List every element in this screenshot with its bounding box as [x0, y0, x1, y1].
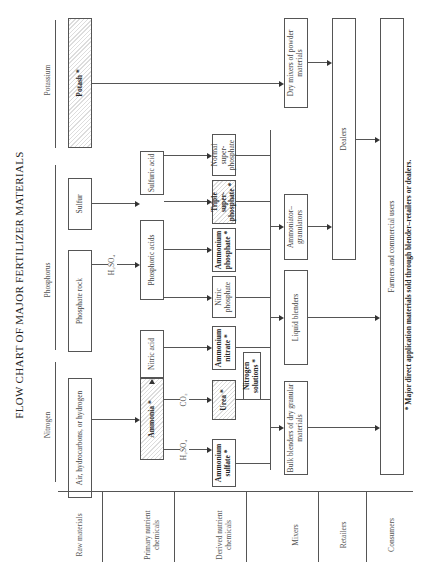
node-ammoniator-granulators: Ammoniator–granulators — [284, 194, 308, 260]
phosphorus-rule — [55, 165, 56, 350]
nitrogen-rule — [55, 362, 56, 482]
node-ammonium-nitrate: Ammonium nitrate * — [212, 326, 236, 370]
reagent-h2so4-phosphate: H₂SO₄ — [108, 245, 117, 285]
stage-divider — [58, 491, 413, 492]
node-liquid-blenders: Liquid blenders — [284, 270, 308, 365]
stage-primary: Primary nutrient chemicals — [144, 502, 161, 568]
stage-mixers: Mixers — [292, 502, 301, 568]
node-triple-superphosphate: Triple super-phosphate * — [212, 180, 236, 224]
chart-title: FLOW CHART OF MAJOR FERTILIZER MATERIALS — [13, 0, 25, 570]
stage-raw-materials: Raw materials — [76, 502, 85, 568]
potassium-rule — [55, 20, 56, 148]
node-nitric-acid: Nitric acid — [140, 330, 164, 378]
node-air-hydrocarbons: Air, hydrocarbons, or hydrogen — [68, 378, 92, 498]
node-ammonia: Ammonia * — [140, 378, 164, 460]
reagent-co2-urea: CO₂ — [180, 380, 189, 420]
node-sulfuric-acid: Sulfuric acid — [140, 151, 164, 195]
node-potash: Potash * — [68, 18, 92, 148]
node-nitric-phosphate: Nitric phosphate — [212, 276, 236, 318]
reagent-h2so4-ammonium: H₂SO₄ — [180, 430, 189, 470]
flow-chart-page: FLOW CHART OF MAJOR FERTILIZER MATERIALS… — [0, 0, 433, 570]
node-urea: Urea * — [212, 380, 236, 420]
node-phosphoric-acids: Phosphoric acids — [140, 220, 164, 300]
node-farmers: Farmers and commercial users — [380, 18, 404, 475]
stage-consumers: Consumers — [388, 502, 397, 568]
header-phosphorus: Phosphorus — [44, 205, 53, 355]
node-bulk-blenders: Bulk blenders of dry granular materials — [284, 381, 308, 475]
stage-retailers: Retailers — [340, 502, 349, 568]
stage-derived: Derived nutrient chemicals — [216, 502, 233, 568]
node-normal-superphosphate: Normal super-phosphate — [212, 134, 236, 176]
mixers-collector-line — [270, 130, 271, 470]
header-nitrogen: Nitrogen — [44, 350, 53, 500]
node-sulfur: Sulfur — [68, 178, 92, 230]
footnote: * Major direct application materials sol… — [404, 0, 413, 570]
node-ammonium-phosphate: Ammonium phosphate * — [212, 228, 236, 272]
header-potassium: Potassium — [44, 5, 53, 155]
node-dry-mixers: Dry mixers of powder materials — [284, 18, 308, 108]
node-dealers: Dealers — [332, 18, 356, 260]
node-phosphate-rock: Phosphate rock — [68, 250, 92, 352]
node-nitrogen-solutions: Nitrogen solutions * — [243, 352, 261, 400]
node-ammonium-sulfate: Ammonium sulfate * — [212, 439, 236, 487]
